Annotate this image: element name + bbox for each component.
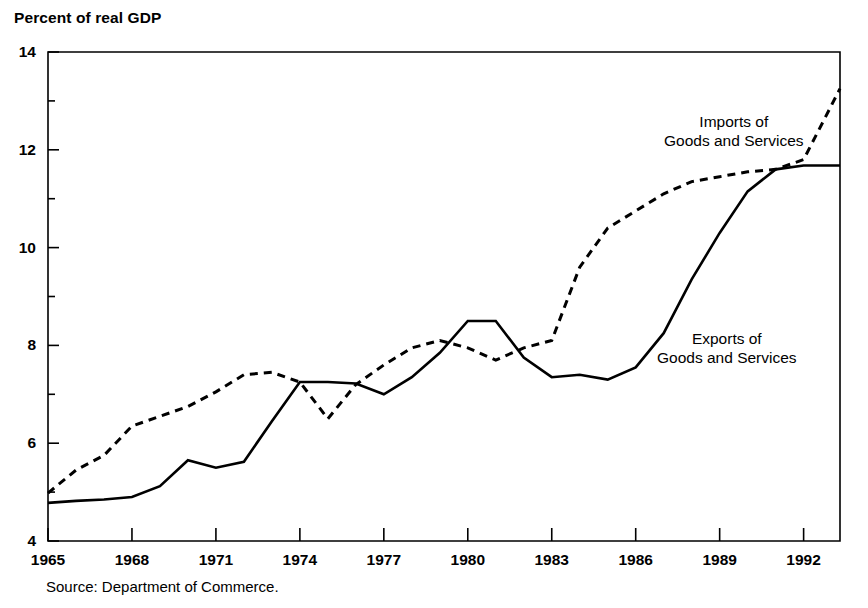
y-axis-tick-label: 8 [0,336,36,354]
x-axis-tick-label: 1965 [31,551,65,569]
x-axis-tick-label: 1992 [786,551,820,569]
source-note: Source: Department of Commerce. [46,578,279,595]
x-axis-tick-label: 1968 [115,551,149,569]
x-axis-tick-label: 1980 [451,551,485,569]
x-axis-tick-label: 1971 [199,551,233,569]
x-axis-tick-label: 1983 [534,551,568,569]
y-axis-tick-label: 10 [0,239,36,257]
exports-label-line1: Exports of [692,330,762,347]
y-axis-tick-label: 14 [0,43,36,61]
y-axis-tick-label: 6 [0,434,36,452]
y-axis-tick-label: 12 [0,141,36,159]
plot-area [0,0,868,608]
x-axis-tick-label: 1986 [618,551,652,569]
imports-label-line2: Goods and Services [664,132,804,149]
x-axis-tick-label: 1989 [702,551,736,569]
x-axis-tick-label: 1977 [367,551,401,569]
imports-series-annotation: Imports of Goods and Services [664,113,804,151]
y-axis-tick-label: 4 [0,532,36,550]
chart-figure: Percent of real GDP Imports of Goods and… [0,0,868,608]
imports-label-line1: Imports of [699,113,768,130]
x-axis-tick-label: 1974 [283,551,317,569]
exports-series-annotation: Exports of Goods and Services [657,330,797,368]
exports-label-line2: Goods and Services [657,349,797,366]
